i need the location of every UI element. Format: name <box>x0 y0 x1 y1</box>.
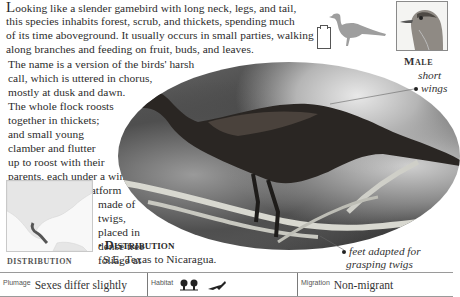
forest-trees-icon <box>179 279 201 291</box>
text-line: of its time aboveground. It usually occu… <box>6 28 314 42</box>
male-head-illustration <box>396 1 448 51</box>
facts-table: Plumage Sexes differ slightly Habitat Mi… <box>0 272 453 297</box>
annotation-leader-line <box>330 86 416 106</box>
bird-head-icon <box>397 2 447 50</box>
text-line: mostly at dusk and dawn. <box>8 85 125 99</box>
migration-label: Migration <box>301 279 330 286</box>
scrub-bird-icon <box>207 279 227 291</box>
male-label: Male <box>404 55 433 67</box>
distribution-map <box>6 180 93 252</box>
text-line: up to roost with their <box>8 155 105 169</box>
annotation-feet: feet adapted for grasping twigs <box>342 245 421 271</box>
distribution-text: S.E. Texas to Nicaragua. <box>103 252 216 266</box>
habitat-cell: Habitat <box>147 273 297 296</box>
migration-value: Non-migrant <box>334 279 393 291</box>
text-line: together in thickets; <box>8 113 100 127</box>
bird-silhouette-icon <box>328 10 388 50</box>
americas-map-icon <box>7 181 92 251</box>
map-caption: DISTRIBUTION <box>7 257 72 266</box>
annotation-leader-line <box>320 236 346 252</box>
plumage-value: Sexes differ slightly <box>35 279 127 291</box>
migration-cell: Migration Non-migrant <box>297 273 453 296</box>
text-line: this species inhabits forest, scrub, and… <box>6 14 295 28</box>
plumage-cell: Plumage Sexes differ slightly <box>0 273 147 296</box>
distribution-heading: Distribution <box>105 238 175 252</box>
text-line: along branches and feeding on fruit, bud… <box>6 42 254 56</box>
annotation-short-wings: short wings <box>414 69 447 95</box>
plumage-label: Plumage <box>3 279 31 286</box>
text-line: and small young <box>8 127 84 141</box>
habitat-label: Habitat <box>151 279 173 286</box>
text-line: clamber and flutter <box>8 141 96 155</box>
text-line: The whole flock roosts <box>8 99 114 113</box>
